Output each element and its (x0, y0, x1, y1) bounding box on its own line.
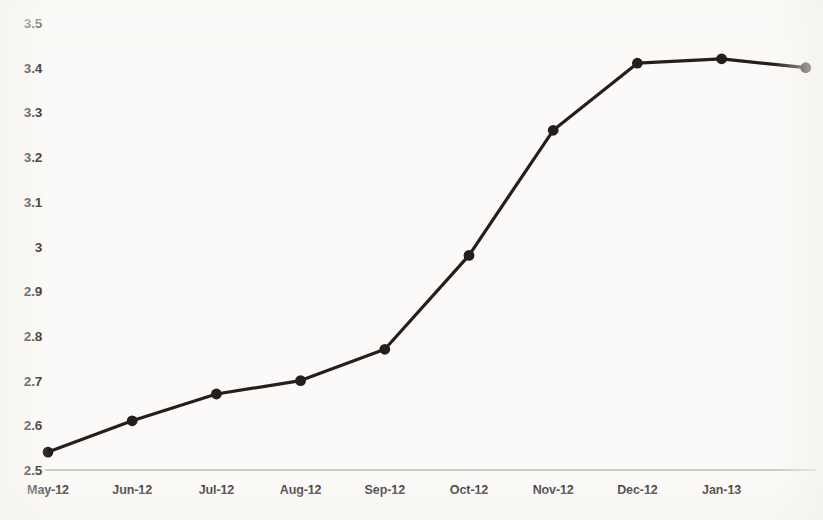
data-point (127, 415, 138, 426)
x-axis-tick-label: May-12 (27, 483, 69, 497)
x-axis-tick-label: Dec-12 (617, 483, 657, 497)
data-point (43, 447, 54, 458)
data-point (548, 125, 559, 136)
x-axis-tick-label: Jan-13 (702, 483, 741, 497)
x-axis-tick-label: Nov-12 (533, 483, 574, 497)
x-axis-tick-label: Sep-12 (365, 483, 405, 497)
data-point (464, 250, 475, 261)
data-point (716, 53, 727, 64)
x-axis-tick-label: Oct-12 (450, 483, 488, 497)
data-point (295, 375, 306, 386)
plot-area (0, 0, 823, 520)
line-chart: 3.53.43.33.23.132.92.82.72.62.5 May-12Ju… (0, 0, 823, 520)
data-point (632, 58, 643, 69)
data-point (379, 344, 390, 355)
x-axis-tick-label: Jun-12 (112, 483, 152, 497)
data-point (211, 389, 222, 400)
data-point-markers (43, 53, 812, 457)
x-axis-tick-label: Aug-12 (280, 483, 322, 497)
x-axis-tick-label: Jul-12 (199, 483, 235, 497)
data-series-line (48, 59, 806, 452)
data-point (800, 62, 811, 73)
